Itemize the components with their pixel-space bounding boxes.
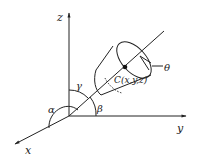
beta-arc: [90, 97, 96, 116]
beta-label: β: [96, 103, 103, 114]
point-c-label: C(x,y,z): [114, 75, 148, 85]
point-c: [123, 65, 128, 70]
y-axis-label: y: [176, 122, 184, 135]
theta-label: θ: [164, 62, 170, 73]
alpha-label: α: [48, 104, 55, 115]
z-axis-label: z: [56, 11, 63, 24]
x-axis-label: x: [25, 144, 32, 157]
gamma-label: γ: [76, 80, 82, 91]
direction-line: [69, 31, 164, 116]
orientation-diagram: z y x γ β α θ C(x,y,z): [0, 0, 198, 166]
gamma-arc: [69, 90, 88, 98]
x-axis: [15, 116, 69, 144]
